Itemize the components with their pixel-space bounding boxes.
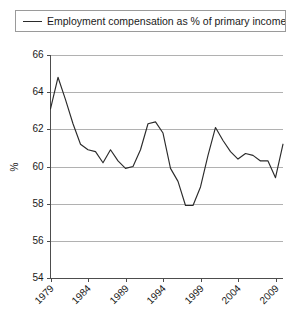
y-tick-label: 56 — [32, 235, 44, 246]
line-chart-svg: 54565860626466 1979198419891994199920042… — [0, 0, 288, 322]
x-tick-label: 2004 — [219, 282, 243, 306]
x-tick-label: 1999 — [182, 282, 206, 306]
chart-figure: Employment compensation as % of primary … — [0, 0, 288, 322]
y-tick-label: 60 — [32, 161, 44, 172]
y-tick-label: 58 — [32, 198, 44, 209]
chart-plot-area: 54565860626466 1979198419891994199920042… — [0, 0, 288, 322]
x-tick-label: 1979 — [32, 282, 56, 306]
y-tick-label: 62 — [32, 123, 44, 134]
x-tick-label: 1994 — [144, 282, 168, 306]
y-tick-label: 54 — [32, 272, 44, 283]
x-tick-label: 1984 — [69, 282, 93, 306]
x-tick-label: 2009 — [257, 282, 281, 306]
x-tick-labels-group: 1979198419891994199920042009 — [32, 282, 281, 306]
x-tick-label: 1989 — [107, 282, 131, 306]
y-axis-title: % — [9, 162, 20, 171]
data-series-line-employment-compensation — [51, 77, 284, 205]
y-tick-label: 66 — [32, 49, 44, 60]
y-tick-label: 64 — [32, 86, 44, 97]
y-tick-labels-group: 54565860626466 — [32, 49, 44, 283]
y-tick-marks-group — [47, 56, 51, 279]
